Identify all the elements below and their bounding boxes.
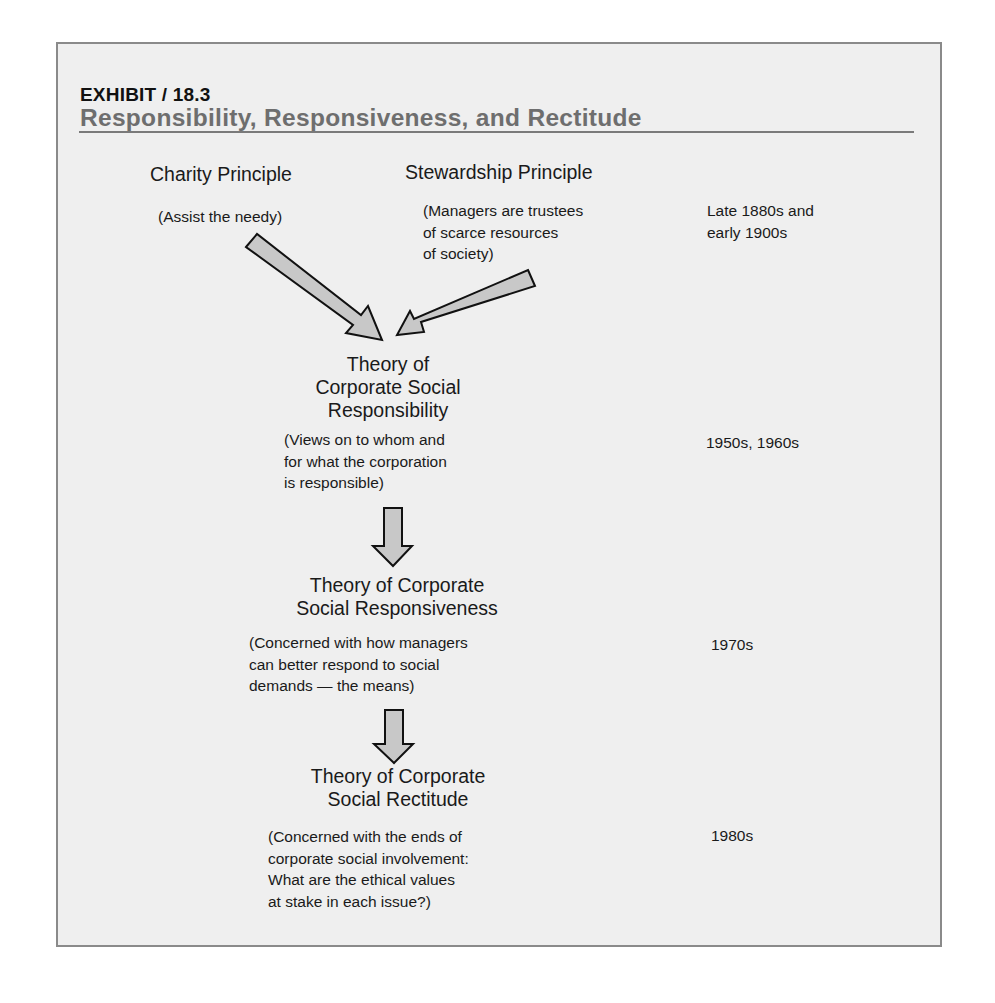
arrow-down-left-icon bbox=[397, 270, 535, 335]
arrow-down-icon bbox=[373, 508, 412, 566]
arrow-down-right-icon bbox=[246, 234, 382, 340]
arrow-down-icon bbox=[374, 710, 413, 763]
flow-arrows bbox=[0, 0, 995, 1003]
